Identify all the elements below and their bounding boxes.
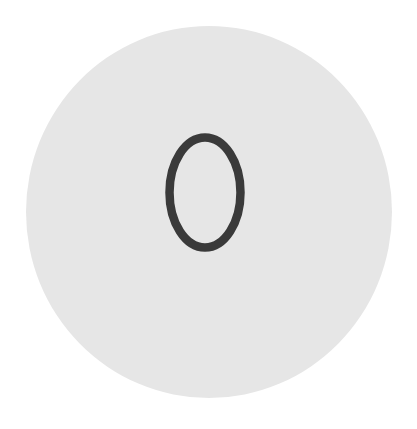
digit-zero-glyph (0, 0, 417, 429)
